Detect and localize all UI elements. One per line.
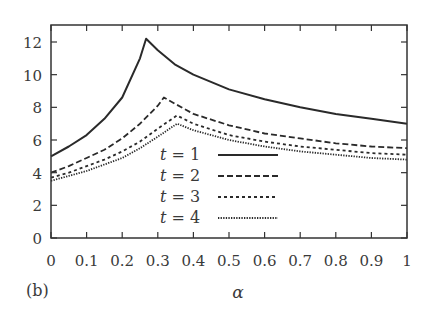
x-tick-label: 0.9 (359, 252, 383, 270)
x-tick-label: 0.8 (324, 252, 348, 270)
series-line-2 (51, 98, 407, 173)
x-tick-label: 0.4 (181, 252, 205, 270)
plot-frame (51, 25, 407, 238)
y-tick-label: 6 (32, 132, 42, 150)
legend-label: t = 2 (160, 166, 200, 185)
y-tick-label: 8 (32, 99, 42, 117)
x-axis-label: α (232, 282, 244, 302)
line-chart: 00.10.20.30.40.50.60.70.80.91 024681012 … (0, 0, 434, 318)
x-tick-label: 0.2 (110, 252, 134, 270)
plot-series-group (51, 39, 407, 181)
legend-label: t = 1 (160, 145, 200, 164)
series-line-4 (51, 124, 407, 181)
y-axis: 024681012 (23, 34, 407, 248)
x-tick-label: 0.5 (217, 252, 241, 270)
x-axis: 00.10.20.30.40.50.60.70.80.91 (46, 25, 412, 270)
y-tick-label: 10 (23, 67, 42, 85)
x-tick-label: 1 (402, 252, 412, 270)
legend-label: t = 4 (160, 208, 200, 227)
x-tick-label: 0.3 (146, 252, 170, 270)
y-tick-label: 0 (32, 230, 42, 248)
x-tick-label: 0 (46, 252, 56, 270)
x-tick-label: 0.7 (288, 252, 312, 270)
panel-label: (b) (26, 281, 49, 300)
x-tick-label: 0.6 (253, 252, 277, 270)
legend: t = 1t = 2t = 3t = 4 (160, 145, 278, 227)
x-tick-label: 0.1 (75, 252, 99, 270)
y-tick-label: 4 (32, 165, 42, 183)
legend-label: t = 3 (160, 187, 200, 206)
series-line-1 (51, 39, 407, 157)
y-tick-label: 12 (23, 34, 42, 52)
y-tick-label: 2 (32, 197, 42, 215)
